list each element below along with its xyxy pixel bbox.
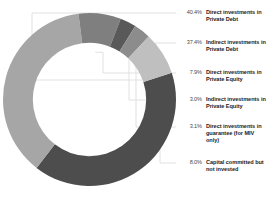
legend-label: Indirect investments in Private Equity (206, 96, 266, 110)
legend-item: 3.0%Indirect investments in Private Equi… (178, 96, 266, 110)
legend-percent: 8.0% (178, 159, 202, 166)
legend-label: Indirect investments in Private Debt (206, 39, 266, 53)
chart-legend: 40.4%Direct investments in Private Debt3… (178, 4, 268, 196)
legend-percent: 37.4% (178, 39, 202, 46)
donut-slice (3, 14, 82, 168)
donut-chart-figure: 40.4%Direct investments in Private Debt3… (0, 0, 268, 198)
legend-label: Direct investments in guarantee (for MIV… (206, 123, 266, 144)
legend-item: 7.9%Direct investments in Private Equity (178, 69, 266, 83)
legend-percent: 3.1% (178, 123, 202, 130)
legend-label: Capital committed but not invested (206, 159, 266, 173)
legend-label: Direct investments in Private Debt (206, 9, 266, 23)
legend-percent: 7.9% (178, 69, 202, 76)
donut-slices-group (3, 13, 176, 186)
legend-item: 40.4%Direct investments in Private Debt (178, 9, 266, 23)
legend-item: 3.1%Direct investments in guarantee (for… (178, 123, 266, 144)
legend-label: Direct investments in Private Equity (206, 69, 266, 83)
legend-percent: 40.4% (178, 9, 202, 16)
legend-item: 8.0%Capital committed but not invested (178, 159, 266, 173)
donut-slice (37, 73, 176, 186)
legend-item: 37.4%Indirect investments in Private Deb… (178, 39, 266, 53)
legend-percent: 3.0% (178, 96, 202, 103)
